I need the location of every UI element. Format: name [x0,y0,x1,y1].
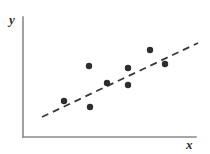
data-point [86,63,92,69]
data-point [125,65,131,71]
regression-dashed-line [42,43,198,117]
plot-canvas [0,0,210,154]
data-point [147,47,153,53]
data-point [125,82,131,88]
data-point [87,104,93,110]
scatter-plot-figure: y x [0,0,210,154]
y-axis-label: y [9,13,15,26]
data-point [61,98,67,104]
data-point [104,80,110,86]
axes [23,17,196,137]
trend-line [42,43,198,117]
x-axis-label: x [186,138,193,151]
data-point [162,61,168,67]
